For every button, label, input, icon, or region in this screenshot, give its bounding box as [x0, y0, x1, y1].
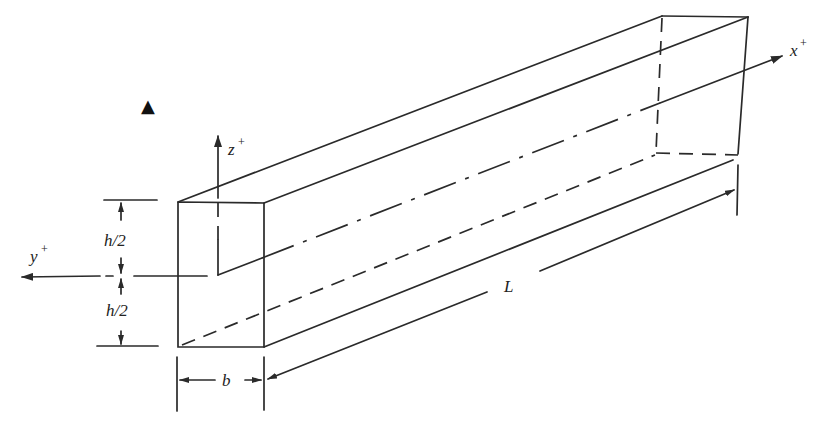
- beam-diagram: ▲ x + z + y: [0, 0, 824, 426]
- x-axis-label: x: [789, 41, 798, 60]
- L-label: L: [503, 277, 513, 296]
- x-axis: x +: [218, 36, 807, 275]
- y-axis-label: y: [28, 247, 38, 266]
- z-axis-label: z: [227, 140, 235, 159]
- h-half-top-label: h/2: [104, 231, 126, 250]
- h-half-bottom-label: h/2: [106, 301, 128, 320]
- triangle-marker-icon: ▲: [141, 95, 155, 116]
- height-dimension: h/2 h/2: [97, 200, 158, 346]
- svg-text:+: +: [41, 242, 48, 256]
- svg-text:▲: ▲: [141, 95, 155, 116]
- length-dimension: L: [268, 165, 738, 379]
- beam-solid-edges: [178, 16, 748, 347]
- svg-text:+: +: [238, 135, 245, 149]
- svg-text:+: +: [800, 36, 807, 50]
- width-dimension: b: [177, 357, 264, 411]
- b-label: b: [222, 371, 231, 390]
- z-axis: z +: [218, 135, 245, 275]
- beam-hidden-edges: [182, 18, 738, 345]
